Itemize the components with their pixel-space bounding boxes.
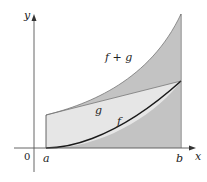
y-axis-label: y [23,9,31,22]
label-f-plus-g: f + g [104,51,132,64]
tick-a-label: a [43,152,50,165]
x-axis-label: x [195,150,202,163]
diagram: y x 0 a b f + g g f [0,0,207,182]
label-g: g [95,104,102,117]
y-axis-arrow-icon [32,14,37,21]
tick-b-label: b [176,152,183,165]
origin-label: 0 [24,151,30,162]
